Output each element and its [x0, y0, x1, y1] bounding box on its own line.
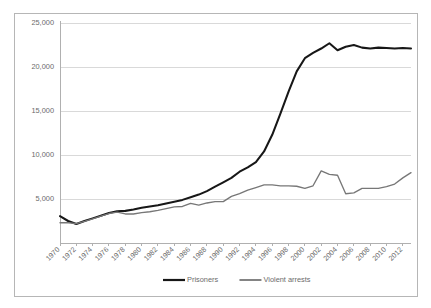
- chart-legend: PrisonersViolent arrests: [163, 275, 311, 284]
- x-tick-label: 1972: [60, 245, 78, 263]
- x-tick-label: 1988: [191, 245, 209, 263]
- x-tick-label: 1990: [207, 245, 225, 263]
- series-line-violent-arrests: [60, 171, 411, 224]
- x-tick-label: 1976: [93, 245, 111, 263]
- chart-container: 25,00020,00015,00010,0005,000 1970197219…: [14, 13, 418, 297]
- data-series-group: [60, 43, 411, 224]
- x-tick-label: 1996: [256, 245, 274, 263]
- x-tick-label: 1994: [240, 245, 258, 263]
- x-tick-label: 1982: [142, 245, 160, 263]
- x-tick-label: 1970: [44, 245, 62, 263]
- x-tick-label: 2008: [354, 245, 372, 263]
- series-line-prisoners: [60, 43, 411, 224]
- x-tick-label: 2004: [321, 245, 339, 263]
- x-tick-label: 1998: [272, 245, 290, 263]
- x-tick-label: 1978: [109, 245, 127, 263]
- axis-lines: [60, 21, 411, 243]
- x-axis-tick-labels: 1970197219741976197819801982198419861988…: [44, 245, 405, 263]
- y-tick-label: 5,000: [36, 194, 55, 203]
- x-tick-label: 1980: [125, 245, 143, 263]
- y-tick-label: 25,000: [31, 18, 54, 27]
- x-tick-label: 2006: [338, 245, 356, 263]
- y-tick-label: 20,000: [31, 62, 54, 71]
- x-tick-label: 1974: [76, 245, 94, 263]
- x-tick-label: 1986: [174, 245, 192, 263]
- legend-label-prisoners: Prisoners: [187, 275, 219, 284]
- x-tick-label: 2010: [370, 245, 388, 263]
- legend-label-violent-arrests: Violent arrests: [263, 275, 310, 284]
- x-tick-label: 2002: [305, 245, 323, 263]
- line-chart: 25,00020,00015,00010,0005,000 1970197219…: [15, 14, 419, 298]
- y-axis-tick-labels: 25,00020,00015,00010,0005,000: [31, 18, 54, 203]
- y-tick-label: 15,000: [31, 106, 54, 115]
- x-tick-label: 1992: [223, 245, 241, 263]
- x-tick-label: 2000: [289, 245, 307, 263]
- x-tick-label: 2012: [387, 245, 405, 263]
- y-tick-label: 10,000: [31, 150, 54, 159]
- gridlines: [60, 23, 411, 199]
- x-tick-label: 1984: [158, 245, 176, 263]
